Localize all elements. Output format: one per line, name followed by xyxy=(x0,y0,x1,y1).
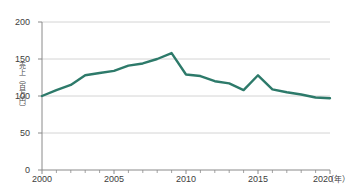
x-tick-label-2000: 2000 xyxy=(25,174,59,184)
x-axis-unit-label: （年） xyxy=(326,175,349,185)
line-chart: 売上（百万円） 200 150 100 50 0 xyxy=(0,0,349,196)
plot-area xyxy=(0,0,349,196)
series-line-sales xyxy=(42,53,330,98)
gridlines xyxy=(42,22,330,133)
x-tick-label-2005: 2005 xyxy=(97,174,131,184)
x-tick-label-2010: 2010 xyxy=(169,174,203,184)
x-tick-label-2015: 2015 xyxy=(241,174,275,184)
